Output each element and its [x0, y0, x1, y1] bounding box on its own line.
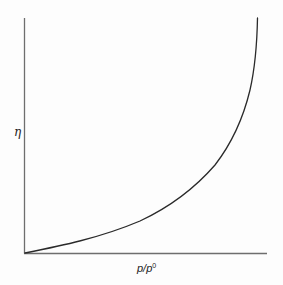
chart-figure: η p/p0	[0, 0, 283, 285]
y-axis-label: η	[14, 126, 21, 138]
data-curve	[25, 18, 258, 253]
x-axis-label: p/p0	[137, 260, 156, 274]
chart-plot-area	[0, 0, 283, 285]
x-axis-label-base: p/p	[137, 262, 152, 274]
x-axis-label-superscript: 0	[152, 262, 156, 269]
